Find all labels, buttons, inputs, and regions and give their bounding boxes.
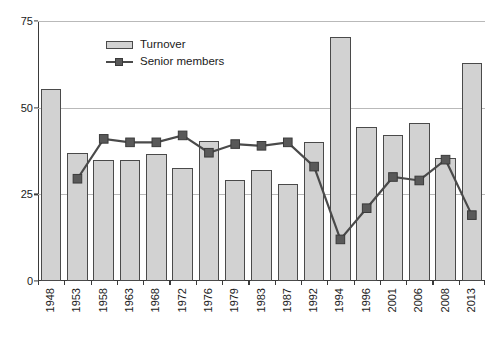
line-marker — [205, 148, 214, 157]
x-tick-mark — [380, 281, 381, 285]
line-marker — [152, 138, 161, 147]
y-tick-label: 50 — [21, 102, 33, 113]
line-marker — [231, 140, 240, 149]
legend-label-turnover: Turnover — [140, 39, 186, 51]
x-tick-label: 1994 — [334, 288, 345, 312]
line-marker — [257, 142, 266, 151]
x-tick-mark — [143, 281, 144, 285]
x-tick-mark — [222, 281, 223, 285]
x-tick-label: 1958 — [98, 288, 109, 312]
line-marker — [126, 138, 135, 147]
chart-legend: Turnover Senior members — [106, 36, 224, 70]
line-marker — [468, 211, 477, 220]
line-path — [77, 135, 471, 239]
x-tick-label: 1953 — [71, 288, 82, 312]
x-tick-label: 1979 — [229, 288, 240, 312]
x-tick-label: 2008 — [440, 288, 451, 312]
chart-container: 0255075 19481953195819631968197219761979… — [0, 0, 499, 339]
x-tick-label: 1948 — [45, 288, 56, 312]
x-tick-label: 2006 — [413, 288, 424, 312]
line-marker — [99, 135, 108, 144]
x-tick-label: 1968 — [150, 288, 161, 312]
line-marker — [389, 173, 398, 182]
x-tick-mark — [91, 281, 92, 285]
x-tick-label: 2001 — [387, 288, 398, 312]
y-tick-label: 75 — [21, 16, 33, 27]
legend-item-turnover: Turnover — [106, 36, 224, 53]
line-marker — [310, 162, 319, 171]
x-tick-label: 1963 — [124, 288, 135, 312]
x-tick-mark — [196, 281, 197, 285]
x-tick-mark — [484, 281, 485, 285]
x-tick-mark — [117, 281, 118, 285]
x-tick-label: 1987 — [282, 288, 293, 312]
y-tick-label: 0 — [27, 276, 33, 287]
x-tick-mark — [38, 281, 39, 285]
x-tick-mark — [459, 281, 460, 285]
x-tick-mark — [354, 281, 355, 285]
line-marker-swatch-icon — [106, 57, 133, 67]
line-marker — [415, 176, 424, 185]
x-tick-mark — [169, 281, 170, 285]
line-marker — [178, 131, 187, 140]
bar-swatch-icon — [106, 41, 133, 49]
x-tick-label: 2013 — [466, 288, 477, 312]
x-tick-label: 1992 — [308, 288, 319, 312]
line-marker — [362, 204, 371, 213]
legend-item-senior-members: Senior members — [106, 53, 224, 70]
x-tick-mark — [248, 281, 249, 285]
x-tick-mark — [301, 281, 302, 285]
line-marker — [441, 155, 450, 164]
x-tick-label: 1972 — [177, 288, 188, 312]
y-tick-label: 25 — [21, 189, 33, 200]
x-tick-label: 1983 — [256, 288, 267, 312]
x-tick-mark — [406, 281, 407, 285]
line-marker — [73, 174, 82, 183]
x-tick-label: 1996 — [361, 288, 372, 312]
x-tick-mark — [327, 281, 328, 285]
x-tick-mark — [432, 281, 433, 285]
x-tick-mark — [64, 281, 65, 285]
legend-label-senior-members: Senior members — [140, 56, 224, 68]
line-marker — [283, 138, 292, 147]
line-marker — [336, 235, 345, 244]
x-tick-mark — [275, 281, 276, 285]
x-tick-label: 1976 — [203, 288, 214, 312]
x-axis-labels: 1948195319581963196819721976197919831987… — [38, 288, 485, 338]
